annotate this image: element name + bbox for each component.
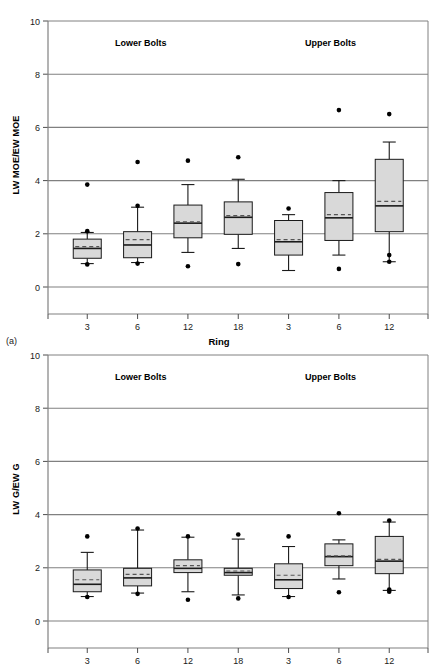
panel-a-xtick-label-0: 3 <box>85 322 90 332</box>
panel-b-box-rect-4 <box>275 564 303 589</box>
group-label-upper-bolts-a: Upper Bolts <box>305 38 356 48</box>
panel-a-outlier-2-1 <box>186 264 191 269</box>
panel-a-outlier-3-0 <box>236 155 241 160</box>
panel-b-xtick-label-0: 3 <box>85 656 90 666</box>
panel-a-xtick-label-5: 6 <box>336 322 341 332</box>
panel-a-ytick-label-2: 2 <box>35 229 40 239</box>
panel-b-ytick-label-6: 6 <box>35 457 40 467</box>
panel-a-box-2 <box>174 158 202 268</box>
panel-b-xtick-label-1: 6 <box>135 656 140 666</box>
panel-b-box-5 <box>325 511 353 595</box>
panel-a-ytick-label-10: 10 <box>30 17 40 27</box>
panel-b-ytick-label-8: 8 <box>35 404 40 414</box>
panel-b-box-0 <box>73 534 101 599</box>
panel-a-xtick-label-1: 6 <box>135 322 140 332</box>
panel-a-outlier-4-0 <box>286 206 291 211</box>
panel-b-outlier-0-1 <box>85 595 90 600</box>
panel-b-box-3 <box>224 532 252 600</box>
panel-a-outlier-5-1 <box>337 267 342 272</box>
panel-b-box-6 <box>375 518 403 594</box>
panel-a-ytick-label-0: 0 <box>35 283 40 293</box>
panel-b-xtick-label-6: 12 <box>384 656 394 666</box>
panel-b-outlier-1-0 <box>135 526 140 531</box>
panel-b-outlier-2-0 <box>186 534 191 539</box>
panel-b-box-rect-6 <box>375 536 403 573</box>
panel-a-box-rect-6 <box>375 159 403 231</box>
panel-a-outlier-1-2 <box>135 204 140 209</box>
panel-b-outlier-6-2 <box>387 589 392 594</box>
panel-b-box-4 <box>275 534 303 599</box>
panel-b-outlier-3-1 <box>236 596 241 601</box>
panel-a-box-4 <box>275 206 303 270</box>
plot-area-b: 02468103612183612 <box>0 334 438 668</box>
panel-a-xtick-label-6: 12 <box>384 322 394 332</box>
panel-a-xtick-label-2: 12 <box>183 322 193 332</box>
panel-a-box-3 <box>224 155 252 267</box>
panel-b-outlier-6-0 <box>387 518 392 523</box>
panel-a-xtick-label-4: 3 <box>286 322 291 332</box>
panel-a-box-0 <box>73 182 101 266</box>
group-label-lower-bolts-b: Lower Bolts <box>115 372 167 382</box>
panel-a: LW MOE/EW MOE 02468103612183612 Ring (a)… <box>0 0 438 334</box>
y-axis-label-b: LW G/EW G <box>11 439 21 539</box>
panel-b-outlier-5-0 <box>337 511 342 516</box>
panel-a-svg: 02468103612183612 <box>0 0 438 334</box>
panel-a-outlier-3-1 <box>236 262 241 267</box>
panel-b-xtick-label-2: 12 <box>183 656 193 666</box>
panel-b-svg: 02468103612183612 <box>0 334 438 668</box>
panel-a-outlier-5-0 <box>337 108 342 113</box>
panel-a-outlier-0-2 <box>85 229 90 234</box>
panel-a-ytick-label-4: 4 <box>35 176 40 186</box>
panel-a-box-rect-4 <box>275 221 303 256</box>
group-label-lower-bolts-a: Lower Bolts <box>115 38 167 48</box>
panel-b-ytick-label-0: 0 <box>35 617 40 627</box>
panel-b-ytick-label-10: 10 <box>30 351 40 361</box>
panel-a-outlier-2-0 <box>186 158 191 163</box>
panel-a-box-6 <box>375 112 403 264</box>
panel-a-outlier-6-1 <box>387 253 392 258</box>
panel-a-outlier-6-0 <box>387 112 392 117</box>
panel-a-box-5 <box>325 108 353 271</box>
panel-a-outlier-1-0 <box>135 160 140 165</box>
panel-b-box-rect-0 <box>73 570 101 592</box>
panel-a-xtick-label-3: 18 <box>233 322 243 332</box>
panel-a-box-rect-5 <box>325 193 353 241</box>
panel-b-xtick-label-3: 18 <box>233 656 243 666</box>
panel-b-outlier-1-1 <box>135 592 140 597</box>
panel-b-outlier-2-1 <box>186 597 191 602</box>
panel-a-box-1 <box>124 160 152 266</box>
panel-a-outlier-6-2 <box>387 259 392 264</box>
group-label-upper-bolts-b: Upper Bolts <box>305 372 356 382</box>
panel-b-ytick-label-4: 4 <box>35 510 40 520</box>
panel-b-outlier-0-0 <box>85 534 90 539</box>
panel-a-ytick-label-8: 8 <box>35 70 40 80</box>
y-axis-label-a: LW MOE/EW MOE <box>11 105 21 205</box>
panel-b-box-2 <box>174 534 202 602</box>
panel-b-xtick-label-5: 6 <box>336 656 341 666</box>
panel-b-xtick-label-4: 3 <box>286 656 291 666</box>
panel-b-box-rect-5 <box>325 544 353 566</box>
panel-a-outlier-0-1 <box>85 262 90 267</box>
panel-b-outlier-3-0 <box>236 532 241 537</box>
panel-b-outlier-4-1 <box>286 595 291 600</box>
panel-b: LW G/EW G 02468103612183612 Ring (b) Low… <box>0 334 438 668</box>
figure-root: LW MOE/EW MOE 02468103612183612 Ring (a)… <box>0 0 438 668</box>
panel-b-box-1 <box>124 526 152 596</box>
panel-b-ytick-label-2: 2 <box>35 563 40 573</box>
panel-b-outlier-5-1 <box>337 590 342 595</box>
plot-area-a: 02468103612183612 <box>0 0 438 334</box>
panel-a-outlier-1-1 <box>135 261 140 266</box>
panel-b-outlier-4-0 <box>286 534 291 539</box>
panel-a-outlier-0-0 <box>85 182 90 187</box>
panel-a-ytick-label-6: 6 <box>35 123 40 133</box>
